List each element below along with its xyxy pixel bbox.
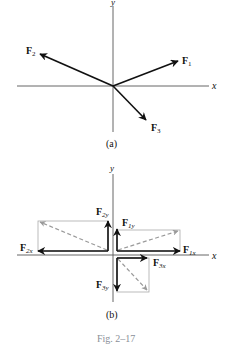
figure-caption: Fig. 2–17: [97, 333, 135, 344]
y-axis-label: y: [110, 0, 115, 7]
f2-resultant-dashed: [40, 222, 107, 250]
f3-resultant-dashed: [118, 259, 147, 290]
x-axis-label: x: [211, 80, 217, 91]
f3x-label: F3x: [153, 257, 167, 270]
f2x-label: F2x: [20, 242, 34, 255]
panel-a-label: (a): [106, 138, 117, 150]
vector-f2-arrow: [40, 54, 113, 86]
panel-a: y x F1 F2 F3 (a): [17, 0, 217, 150]
f3y-label: F3y: [96, 279, 110, 292]
panel-b: y x F1x F1y F2x F2y F3x F3y (b): [17, 163, 217, 321]
vector-f3-arrow: [113, 86, 146, 120]
f2-label: F2: [26, 45, 36, 58]
f3-label: F3: [151, 122, 161, 135]
f1-resultant-dashed: [118, 231, 178, 250]
vector-f1-arrow: [113, 61, 178, 86]
f1-label: F1: [182, 55, 192, 68]
panel-b-label: (b): [106, 309, 118, 321]
f1y-label: F1y: [122, 217, 136, 230]
y-axis-label: y: [109, 163, 114, 173]
x-axis-label: x: [211, 250, 217, 261]
force-components-figure: y x F1 F2 F3 (a) y x F1x F1y F2x F: [0, 0, 232, 351]
f2y-label: F2y: [96, 206, 110, 219]
